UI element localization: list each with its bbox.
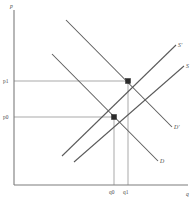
price-tick-p0: p0	[3, 114, 9, 120]
quantity-tick-q1: q1	[123, 189, 129, 195]
supply-curve-shifted	[62, 45, 176, 156]
price-tick-p1: p1	[3, 78, 9, 84]
curve-label-demand-shifted: D'	[173, 124, 180, 130]
guide-lines	[14, 81, 128, 185]
curve-label-supply-original: S	[186, 63, 189, 69]
equilibrium-marker-0	[112, 115, 117, 120]
quantity-tick-q0: q0	[109, 189, 115, 195]
demand-curve-shifted	[66, 20, 172, 127]
y-axis-label: p	[9, 3, 13, 9]
curve-label-supply-shifted: S'	[178, 42, 183, 48]
curves	[52, 20, 184, 162]
demand-curve-original	[52, 54, 158, 161]
curve-label-demand-original: D	[159, 158, 165, 164]
supply-demand-diagram: p q p1 p0 q0 q1 S' S D' D	[0, 0, 196, 204]
equilibrium-marker-1	[126, 79, 131, 84]
x-axis-label: q	[186, 191, 189, 197]
